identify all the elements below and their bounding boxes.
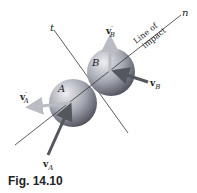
figure-caption: Fig. 14.10 [8, 174, 63, 188]
vb-label: vB [149, 78, 160, 91]
collision-diagram: t n Line of impact A B v′B vB v′A vA [0, 0, 197, 193]
va-label: vA [42, 159, 53, 172]
tangent-label: t [50, 22, 55, 33]
va-prime-label: v′A [19, 91, 29, 105]
sphere-a-label: A [57, 83, 65, 94]
vb-prime-label: v′B [105, 25, 115, 39]
sphere-b-label: B [91, 57, 99, 68]
impact-label-n: n [182, 7, 188, 18]
